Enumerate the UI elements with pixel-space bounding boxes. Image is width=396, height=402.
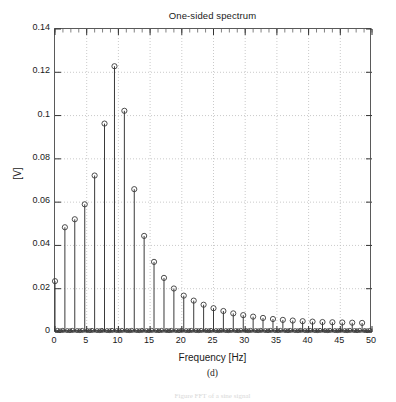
y-tick-label: 0.02: [4, 282, 50, 292]
y-tick-label: 0: [4, 325, 50, 335]
spectrum-figure: One-sided spectrum [V] 00.020.040.060.08…: [0, 0, 396, 402]
y-tick-label: 0.1: [4, 109, 50, 119]
y-tick-label: 0.04: [4, 238, 50, 248]
x-axis-label: Frequency [Hz]: [54, 352, 371, 363]
x-tick-label: 25: [197, 335, 229, 345]
x-tick-label: 10: [101, 335, 133, 345]
page-caption-faint: Figure FFT of a sine signal: [54, 392, 371, 400]
y-tick-label: 0.14: [4, 22, 50, 32]
y-tick-label: 0.06: [4, 195, 50, 205]
x-tick-label: 30: [228, 335, 260, 345]
subfigure-label: (d): [54, 368, 371, 378]
x-tick-label: 40: [292, 335, 324, 345]
x-tick-label: 20: [165, 335, 197, 345]
stem-lines: [55, 66, 372, 332]
y-tick-label: 0.08: [4, 152, 50, 162]
x-tick-label: 35: [260, 335, 292, 345]
x-tick-label: 50: [355, 335, 387, 345]
data-point-markers: [52, 64, 371, 333]
y-axis-label: [V]: [12, 159, 23, 189]
plot-canvas: [55, 29, 372, 332]
y-tick-label: 0.12: [4, 65, 50, 75]
x-tick-label: 45: [323, 335, 355, 345]
x-tick-label: 15: [133, 335, 165, 345]
plot-area: [54, 28, 371, 331]
figure-page: One-sided spectrum [V] 00.020.040.060.08…: [0, 0, 396, 402]
gridlines: [55, 29, 372, 332]
chart-title: One-sided spectrum: [54, 10, 371, 21]
x-tick-label: 5: [70, 335, 102, 345]
x-tick-label: 0: [38, 335, 70, 345]
